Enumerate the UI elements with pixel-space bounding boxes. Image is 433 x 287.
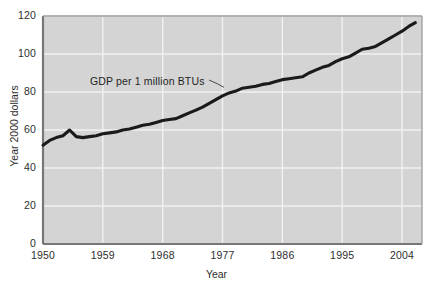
y-tick-label: 120 xyxy=(8,9,36,21)
x-tick-label: 1995 xyxy=(320,249,364,261)
x-axis-label: Year xyxy=(0,268,433,280)
y-tick-label: 0 xyxy=(8,237,36,249)
y-tick-label: 80 xyxy=(8,85,36,97)
y-tick-label: 100 xyxy=(8,47,36,59)
y-tick-label: 20 xyxy=(8,199,36,211)
y-tick-label: 60 xyxy=(8,123,36,135)
series-annotation-label: GDP per 1 million BTUs xyxy=(90,75,205,87)
x-tick-label: 1968 xyxy=(141,249,185,261)
line-chart-canvas xyxy=(0,0,433,287)
x-tick-label: 1959 xyxy=(81,249,125,261)
chart-figure: Year 2000 dollars Year GDP per 1 million… xyxy=(0,0,433,287)
x-tick-label: 1977 xyxy=(201,249,245,261)
x-tick-label: 2004 xyxy=(380,249,424,261)
x-tick-label: 1986 xyxy=(260,249,304,261)
y-tick-label: 40 xyxy=(8,161,36,173)
x-tick-label: 1950 xyxy=(21,249,65,261)
